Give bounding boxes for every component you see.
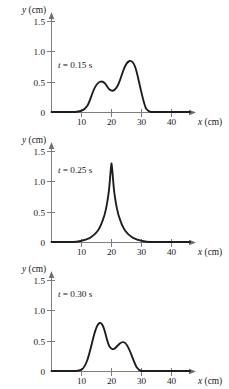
time-annotation-2: t = 0.25 s xyxy=(58,165,93,175)
x-axis-title-3: x (cm) xyxy=(197,376,222,387)
x-ticklabel-3-40: 40 xyxy=(167,376,177,386)
x-axis-unit-3: (cm) xyxy=(205,376,223,387)
y-ticklabel-2-0: 0 xyxy=(40,238,45,248)
wave-pulse-figure: 1.5 1.0 0.5 0 10 20 30 40 y (cm) x (cm) … xyxy=(0,0,229,389)
x-ticklabel-1-30: 30 xyxy=(137,117,147,127)
time-value-1: = 0.15 s xyxy=(63,60,93,70)
x-ticklabel-3-30: 30 xyxy=(137,376,147,386)
y-ticklabel-3-1.0: 1.0 xyxy=(34,306,46,316)
x-ticklabel-2-20: 20 xyxy=(107,247,117,257)
y-ticklabel-1-1.5: 1.5 xyxy=(34,17,46,27)
y-ticklabel-1-0.5: 0.5 xyxy=(34,78,46,88)
y-axis-arrowhead-3 xyxy=(49,271,54,278)
y-ticklabel-2-0.5: 0.5 xyxy=(34,208,46,218)
y-ticklabel-3-0.5: 0.5 xyxy=(34,337,46,347)
x-ticklabel-1-10: 10 xyxy=(77,117,87,127)
wave-curve-2 xyxy=(52,164,191,243)
x-axis-title-1: x (cm) xyxy=(197,117,222,128)
y-ticklabel-3-1.5: 1.5 xyxy=(34,276,46,286)
y-ticklabel-2-1.0: 1.0 xyxy=(34,177,46,187)
x-axis-unit-1: (cm) xyxy=(205,117,223,128)
y-ticklabel-1-0: 0 xyxy=(40,108,45,118)
y-axis-title-2: y (cm) xyxy=(21,135,46,146)
x-ticklabel-3-20: 20 xyxy=(107,376,117,386)
plot-panel-1: 1.5 1.0 0.5 0 10 20 30 40 y (cm) x (cm) … xyxy=(0,0,229,130)
y-axis-arrowhead-1 xyxy=(49,12,54,19)
plot-panel-3: 1.5 1.0 0.5 0 10 20 30 40 y (cm) x (cm) … xyxy=(0,259,229,389)
time-annotation-3: t = 0.30 s xyxy=(58,289,93,299)
y-axis-unit-3: (cm) xyxy=(29,264,47,275)
y-ticklabel-2-1.5: 1.5 xyxy=(34,147,46,157)
x-ticklabel-1-40: 40 xyxy=(167,117,177,127)
x-ticklabel-3-10: 10 xyxy=(77,376,87,386)
x-ticklabel-2-30: 30 xyxy=(137,247,147,257)
x-axis-title-2: x (cm) xyxy=(197,247,222,258)
time-value-2: = 0.25 s xyxy=(63,165,93,175)
time-annotation-1: t = 0.15 s xyxy=(58,60,93,70)
wave-curve-3 xyxy=(52,323,191,371)
y-ticklabel-3-0: 0 xyxy=(40,367,45,377)
x-axis-unit-2: (cm) xyxy=(205,247,223,258)
x-ticklabel-2-10: 10 xyxy=(77,247,87,257)
y-ticklabel-1-1.0: 1.0 xyxy=(34,47,46,57)
x-ticklabel-1-20: 20 xyxy=(107,117,117,127)
x-ticklabel-2-40: 40 xyxy=(167,247,177,257)
time-value-3: = 0.30 s xyxy=(63,289,93,299)
y-axis-title-3: y (cm) xyxy=(21,264,46,275)
y-axis-title-1: y (cm) xyxy=(21,5,46,16)
plot-panel-2: 1.5 1.0 0.5 0 10 20 30 40 y (cm) x (cm) … xyxy=(0,130,229,260)
y-axis-unit-1: (cm) xyxy=(29,5,47,16)
y-axis-unit-2: (cm) xyxy=(29,135,47,146)
y-axis-arrowhead-2 xyxy=(49,142,54,149)
